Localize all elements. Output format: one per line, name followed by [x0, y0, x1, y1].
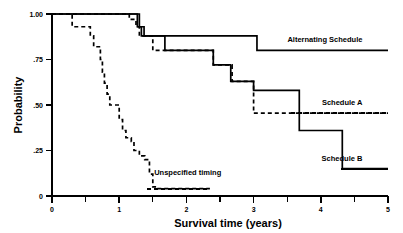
x-tick-label-4: 4 — [319, 206, 323, 213]
series-label-alternating-schedule: Alternating Schedule — [287, 35, 362, 44]
x-tick-label-3: 3 — [252, 206, 256, 213]
x-tick-label-5: 5 — [386, 206, 390, 213]
kaplan-meier-plot: 0.25.50.751.00012345 Alternating Schedul… — [0, 0, 403, 233]
survival-curve-figure: 0.25.50.751.00012345 Alternating Schedul… — [0, 0, 403, 233]
y-tick-label-3: .75 — [33, 56, 43, 63]
x-tick-label-2: 2 — [184, 206, 188, 213]
curve-unspecified-timing — [52, 14, 210, 189]
x-axis-title: Survival time (years) — [174, 217, 282, 229]
y-axis-title: Probability — [12, 76, 24, 134]
series-label-schedule-a: Schedule A — [322, 98, 363, 107]
y-tick-label-0: 0 — [39, 193, 43, 200]
series-annotations: Alternating ScheduleSchedule ASchedule B… — [147, 35, 388, 189]
series-label-schedule-b: Schedule B — [322, 154, 363, 163]
x-tick-label-1: 1 — [117, 206, 121, 213]
series-label-unspecified-timing: Unspecified timing — [154, 168, 222, 177]
curve-alternating-schedule — [52, 14, 388, 50]
x-tick-label-0: 0 — [50, 206, 54, 213]
y-tick-label-1: .25 — [33, 147, 43, 154]
y-tick-label-4: 1.00 — [29, 11, 43, 18]
y-tick-label-2: .50 — [33, 102, 43, 109]
